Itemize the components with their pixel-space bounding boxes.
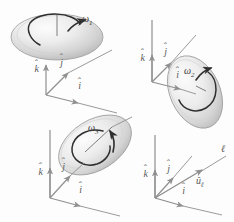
rotating-disks-figure: kˆ jˆ iˆ ω1 kˆ j: [0, 0, 234, 222]
line-ell-label: ℓ: [221, 143, 225, 154]
figure-root: kˆ jˆ iˆ ω1 kˆ j: [0, 0, 234, 222]
